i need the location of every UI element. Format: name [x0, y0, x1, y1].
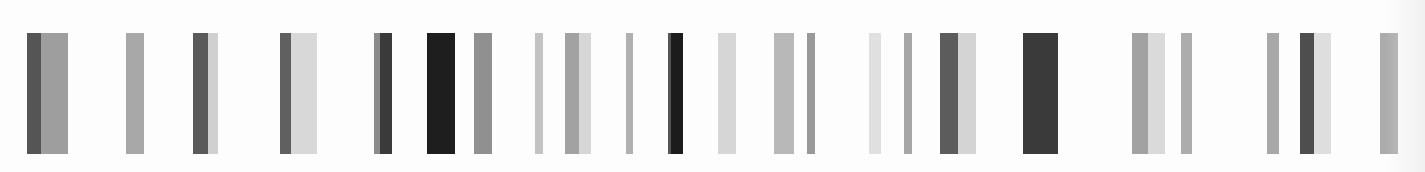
bar-segment [1300, 33, 1314, 154]
bar-segment [718, 33, 736, 154]
bar-16 [904, 33, 912, 154]
bar-segment [671, 33, 683, 154]
bar-3 [193, 33, 218, 154]
bar-10 [626, 33, 633, 154]
bar-segment [1023, 33, 1058, 154]
bar-2 [126, 33, 144, 154]
bar-5 [374, 33, 392, 154]
bar-19 [1132, 33, 1165, 154]
bar-segment [193, 33, 208, 154]
bar-segment [940, 33, 958, 154]
bar-segment [41, 33, 68, 154]
bar-segment [1132, 33, 1148, 154]
bar-14 [807, 33, 815, 154]
bar-segment [869, 33, 881, 154]
bar-segment [774, 33, 794, 154]
barcode-canvas [0, 0, 1425, 172]
bar-9 [565, 33, 591, 154]
bar-segment [126, 33, 144, 154]
bar-12 [718, 33, 736, 154]
bar-segment [535, 33, 543, 154]
bar-8 [535, 33, 543, 154]
bar-7 [474, 33, 492, 154]
bar-segment [579, 33, 591, 154]
bar-11 [668, 33, 683, 154]
bar-18 [1023, 33, 1058, 154]
bar-segment [291, 33, 317, 154]
bar-13 [774, 33, 794, 154]
bar-segment [626, 33, 633, 154]
bar-1 [27, 33, 68, 154]
bar-segment [474, 33, 492, 154]
edge-shading [1385, 0, 1425, 172]
bar-17 [940, 33, 976, 154]
bar-21 [1267, 33, 1279, 154]
bar-segment [1267, 33, 1279, 154]
bar-segment [1181, 33, 1192, 154]
bar-segment [280, 33, 291, 154]
bar-segment [565, 33, 579, 154]
bar-segment [380, 33, 392, 154]
bar-22 [1300, 33, 1331, 154]
bar-20 [1181, 33, 1192, 154]
bar-segment [208, 33, 218, 154]
bar-15 [869, 33, 881, 154]
bar-segment [427, 33, 455, 154]
bar-4 [280, 33, 317, 154]
bar-segment [904, 33, 912, 154]
bar-segment [1314, 33, 1331, 154]
bar-segment [958, 33, 976, 154]
bar-segment [1148, 33, 1165, 154]
bar-segment [807, 33, 815, 154]
bar-segment [27, 33, 41, 154]
bar-6 [427, 33, 455, 154]
